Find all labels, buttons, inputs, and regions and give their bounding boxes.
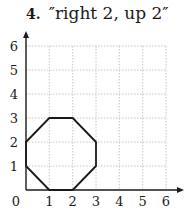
svg-text:1: 1 <box>45 194 53 209</box>
svg-text:6: 6 <box>162 194 170 209</box>
svg-text:3: 3 <box>92 194 100 209</box>
svg-text:1: 1 <box>10 159 18 174</box>
svg-text:3: 3 <box>10 111 18 126</box>
x-axis-arrow-icon <box>177 187 184 193</box>
axes <box>23 31 184 193</box>
coordinate-grid: 0 1 2 3 4 5 6 1 2 3 4 5 6 <box>0 0 190 210</box>
grid-lines <box>26 46 166 190</box>
svg-text:5: 5 <box>10 63 18 78</box>
svg-text:4: 4 <box>115 194 123 209</box>
y-axis-arrow-icon <box>23 31 29 38</box>
octagon-shape <box>26 118 96 190</box>
svg-text:5: 5 <box>139 194 147 209</box>
svg-text:4: 4 <box>10 87 18 102</box>
svg-text:2: 2 <box>69 194 77 209</box>
svg-text:0: 0 <box>12 194 20 209</box>
y-tick-labels: 1 2 3 4 5 6 <box>10 39 18 174</box>
svg-text:2: 2 <box>10 135 18 150</box>
x-tick-labels: 0 1 2 3 4 5 6 <box>12 194 170 209</box>
svg-text:6: 6 <box>10 39 18 54</box>
